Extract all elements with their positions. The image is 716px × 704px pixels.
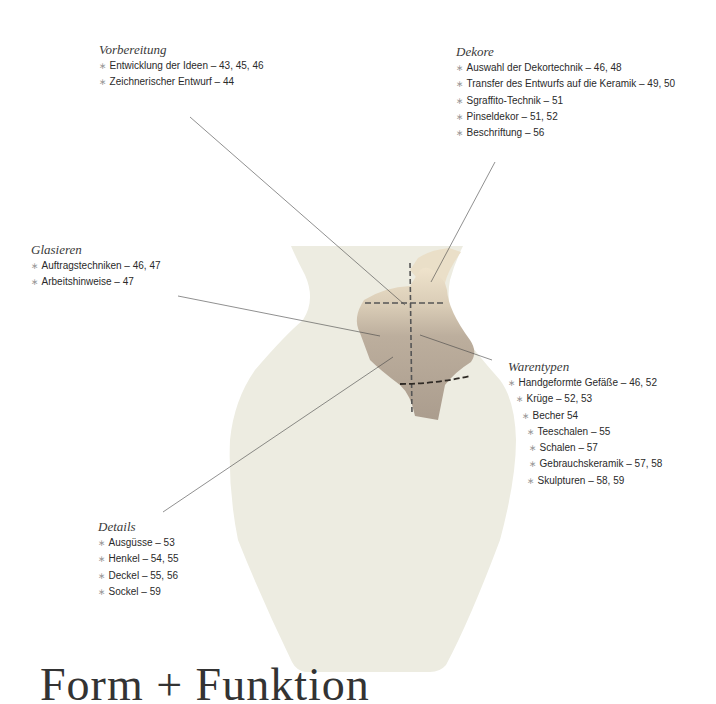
bullet-star-icon: ∗ xyxy=(98,587,106,597)
list-item: ∗Zeichnerischer Entwurf – 44 xyxy=(99,74,264,90)
bullet-star-icon: ∗ xyxy=(99,77,107,87)
bullet-star-icon: ∗ xyxy=(456,63,464,73)
list-item: ∗Gebrauchskeramik – 57, 58 xyxy=(508,456,662,472)
list-item: ∗Beschriftung – 56 xyxy=(456,125,675,141)
bullet-star-icon: ∗ xyxy=(516,394,524,404)
bullet-star-icon: ∗ xyxy=(527,476,535,486)
list-item: ∗Becher 54 xyxy=(508,408,662,424)
bullet-star-icon: ∗ xyxy=(529,443,537,453)
bullet-star-icon: ∗ xyxy=(31,261,39,271)
section-glasieren: Glasieren ∗Auftragstechniken – 46, 47 ∗A… xyxy=(31,241,161,291)
section-title: Warentypen xyxy=(508,358,662,375)
section-dekore: Dekore ∗Auswahl der Dekortechnik – 46, 4… xyxy=(456,43,675,141)
list-item: ∗Krüge – 52, 53 xyxy=(508,391,662,407)
bullet-star-icon: ∗ xyxy=(98,538,106,548)
section-title: Dekore xyxy=(456,43,675,60)
leader-dekore xyxy=(431,162,495,282)
list-item: ∗Auswahl der Dekortechnik – 46, 48 xyxy=(456,60,675,76)
list-item: ∗Transfer des Entwurfs auf die Keramik –… xyxy=(456,76,675,92)
section-title: Details xyxy=(98,518,179,535)
list-item: ∗Sgraffito-Technik – 51 xyxy=(456,93,675,109)
bullet-star-icon: ∗ xyxy=(529,459,537,469)
list-item: ∗Auftragstechniken – 46, 47 xyxy=(31,258,161,274)
bullet-star-icon: ∗ xyxy=(98,571,106,581)
bullet-star-icon: ∗ xyxy=(527,427,535,437)
list-item: ∗Deckel – 55, 56 xyxy=(98,568,179,584)
list-item: ∗Sockel – 59 xyxy=(98,584,179,600)
bullet-star-icon: ∗ xyxy=(508,378,516,388)
list-item: ∗Handgeformte Gefäße – 46, 52 xyxy=(508,375,662,391)
bullet-star-icon: ∗ xyxy=(456,112,464,122)
bullet-star-icon: ∗ xyxy=(99,61,107,71)
list-item: ∗Skulpturen – 58, 59 xyxy=(508,473,662,489)
list-item: ∗Henkel – 54, 55 xyxy=(98,551,179,567)
list-item: ∗Schalen – 57 xyxy=(508,440,662,456)
section-title: Glasieren xyxy=(31,241,161,258)
list-item: ∗Entwicklung der Ideen – 43, 45, 46 xyxy=(99,58,264,74)
leader-vorbereitung xyxy=(190,117,405,305)
bullet-star-icon: ∗ xyxy=(31,277,39,287)
bullet-star-icon: ∗ xyxy=(98,554,106,564)
bullet-star-icon: ∗ xyxy=(456,79,464,89)
list-item: ∗Teeschalen – 55 xyxy=(508,424,662,440)
bullet-star-icon: ∗ xyxy=(522,411,530,421)
bullet-star-icon: ∗ xyxy=(456,128,464,138)
section-vorbereitung: Vorbereitung ∗Entwicklung der Ideen – 43… xyxy=(99,41,264,91)
list-item: ∗Pinseldekor – 51, 52 xyxy=(456,109,675,125)
section-title: Vorbereitung xyxy=(99,41,264,58)
section-details: Details ∗Ausgüsse – 53 ∗Henkel – 54, 55 … xyxy=(98,518,179,600)
list-item: ∗Ausgüsse – 53 xyxy=(98,535,179,551)
section-warentypen: Warentypen ∗Handgeformte Gefäße – 46, 52… xyxy=(508,358,662,489)
page-headline: Form + Funktion xyxy=(40,658,370,704)
bullet-star-icon: ∗ xyxy=(456,96,464,106)
list-item: ∗Arbeitshinweise – 47 xyxy=(31,274,161,290)
